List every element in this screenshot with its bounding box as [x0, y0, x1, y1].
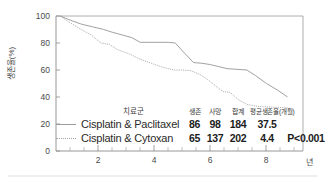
legend-series-name-cytoxan: Cisplatin & Cytoxan	[81, 132, 185, 144]
legend-header-alive: 생존	[185, 106, 204, 116]
legend-mean-survival-cytoxan: 4.4	[250, 132, 284, 144]
survival-curve-paclitaxel	[60, 16, 287, 97]
y-axis-title: 생존율(%)	[5, 39, 16, 89]
x-axis-unit-label: 년	[306, 156, 313, 167]
legend-row-cytoxan[interactable]: Cisplatin & Cytoxan 65 137 202 4.4 P<0.0…	[55, 131, 305, 145]
legend-header-mean-survival: 평균생존율(개월)	[250, 106, 284, 116]
legend-header-total: 합계	[226, 106, 250, 116]
x-tick-label-4: 4	[146, 156, 162, 165]
legend-group-header: 치료군	[81, 105, 185, 116]
legend-line-swatch-solid	[55, 117, 81, 131]
y-tick-label-0: 0	[28, 147, 50, 156]
legend-alive-paclitaxel: 86	[185, 118, 204, 130]
legend-pvalue-cytoxan: P<0.001	[284, 132, 328, 144]
legend-alive-cytoxan: 65	[185, 132, 204, 144]
legend-header-row: 치료군 생존 사망 합계 평균생존율(개월)	[55, 104, 305, 117]
legend-header-dead: 사망	[204, 106, 226, 116]
x-tick-label-2: 2	[90, 156, 106, 165]
legend-series-name-paclitaxel: Cisplatin & Paclitaxel	[81, 118, 185, 130]
y-tick-label-80: 80	[28, 39, 50, 48]
survival-curve-cytoxan	[60, 16, 287, 108]
x-tick-label-6: 6	[202, 156, 218, 165]
y-tick-label-20: 20	[28, 120, 50, 129]
legend-dead-paclitaxel: 98	[204, 118, 226, 130]
legend-line-swatch-dotted	[55, 131, 81, 145]
legend-dead-cytoxan: 137	[204, 132, 226, 144]
x-axis-ticks	[70, 145, 294, 151]
legend-mean-survival-paclitaxel: 37.5	[250, 118, 284, 130]
legend-total-paclitaxel: 184	[226, 118, 250, 130]
legend-total-cytoxan: 202	[226, 132, 250, 144]
legend-stats-table: 치료군 생존 사망 합계 평균생존율(개월) Cisplatin & Pacli…	[55, 104, 305, 145]
y-tick-label-60: 60	[28, 66, 50, 75]
x-tick-label-8: 8	[258, 156, 274, 165]
legend-row-paclitaxel[interactable]: Cisplatin & Paclitaxel 86 98 184 37.5	[55, 117, 305, 131]
y-tick-label-40: 40	[28, 93, 50, 102]
y-tick-label-100: 100	[28, 12, 50, 21]
